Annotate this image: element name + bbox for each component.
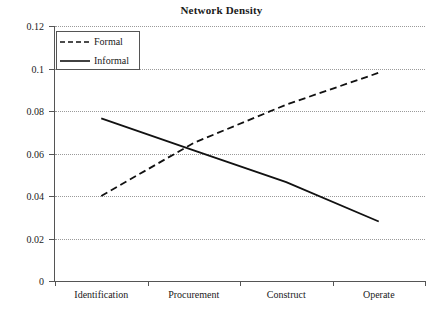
y-axis-tick-label: 0 [0, 276, 44, 287]
legend-item-formal: Formal [57, 32, 139, 51]
x-axis-tick-label: Operate [363, 289, 395, 300]
y-axis-tick-label: 0.04 [0, 191, 44, 202]
y-axis-tick [49, 154, 55, 155]
y-axis-tick [49, 239, 55, 240]
x-axis-tick-label: Identification [74, 289, 128, 300]
x-axis-tick [148, 281, 149, 286]
chart-legend: Formal Informal [56, 31, 140, 70]
chart-figure: Network Density Formal Informal 00.020.0… [0, 0, 443, 320]
gridline [55, 26, 425, 27]
gridline [55, 196, 425, 197]
chart-title: Network Density [0, 4, 443, 16]
y-axis-tick [49, 26, 55, 27]
y-axis-tick-label: 0.12 [0, 21, 44, 32]
x-axis-tick [333, 281, 334, 286]
y-axis-tick-label: 0.02 [0, 233, 44, 244]
gridline [55, 239, 425, 240]
y-axis-tick-label: 0.1 [0, 63, 44, 74]
legend-swatch-solid-icon [60, 56, 90, 66]
x-axis-tick-label: Construct [267, 289, 306, 300]
y-axis-tick [49, 69, 55, 70]
x-axis-tick [425, 281, 426, 286]
x-axis-tick [55, 281, 56, 286]
y-axis-tick-label: 0.08 [0, 106, 44, 117]
legend-label-informal: Informal [94, 56, 129, 66]
gridline [55, 111, 425, 112]
x-axis-tick [240, 281, 241, 286]
legend-item-informal: Informal [57, 51, 139, 70]
legend-label-formal: Formal [94, 37, 123, 47]
gridline [55, 154, 425, 155]
x-axis-tick-label: Procurement [168, 289, 219, 300]
y-axis-tick [49, 111, 55, 112]
legend-swatch-dashed-icon [60, 37, 90, 47]
y-axis-tick [49, 196, 55, 197]
y-axis-tick-label: 0.06 [0, 148, 44, 159]
